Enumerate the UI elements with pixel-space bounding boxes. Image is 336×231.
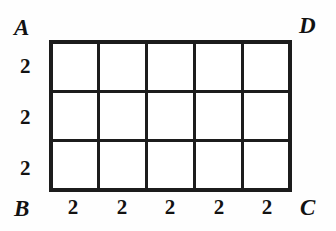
grid-cell bbox=[195, 42, 243, 92]
grid-body bbox=[51, 42, 291, 191]
grid-cell bbox=[99, 141, 147, 191]
grid-container bbox=[49, 40, 292, 192]
left-segment-label-3: 2 bbox=[20, 158, 31, 179]
grid-cell bbox=[99, 42, 147, 92]
vertex-label-b: B bbox=[14, 197, 29, 220]
left-segment-label-1: 2 bbox=[20, 56, 31, 77]
grid-cell bbox=[99, 91, 147, 141]
table-row bbox=[51, 42, 291, 92]
grid-cell bbox=[147, 91, 195, 141]
grid-cell bbox=[147, 42, 195, 92]
bottom-segment-label-2: 2 bbox=[117, 197, 128, 218]
bottom-segment-label-5: 2 bbox=[262, 197, 273, 218]
bottom-segment-label-4: 2 bbox=[214, 197, 225, 218]
grid-cell bbox=[195, 91, 243, 141]
table-row bbox=[51, 141, 291, 191]
vertex-label-c: C bbox=[300, 196, 315, 219]
vertex-label-a: A bbox=[14, 16, 29, 39]
grid-cell bbox=[51, 42, 99, 92]
grid-cell bbox=[51, 141, 99, 191]
grid-cell bbox=[147, 141, 195, 191]
bottom-segment-label-3: 2 bbox=[165, 197, 176, 218]
vertex-label-d: D bbox=[299, 14, 316, 37]
grid-table bbox=[49, 40, 292, 192]
table-row bbox=[51, 91, 291, 141]
grid-cell bbox=[51, 91, 99, 141]
geometry-grid-figure: A D B C 2 2 2 2 2 2 2 2 bbox=[0, 0, 336, 231]
grid-cell bbox=[243, 141, 291, 191]
left-segment-label-2: 2 bbox=[20, 107, 31, 128]
grid-cell bbox=[243, 42, 291, 92]
grid-cell bbox=[195, 141, 243, 191]
bottom-segment-label-1: 2 bbox=[68, 197, 79, 218]
grid-cell bbox=[243, 91, 291, 141]
